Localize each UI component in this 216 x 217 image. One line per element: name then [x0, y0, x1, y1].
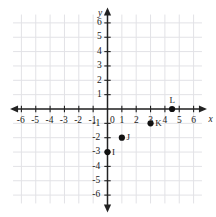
- data-point-j: [119, 135, 125, 141]
- x-tick-label: -2: [74, 116, 82, 126]
- y-tick-label: 1: [97, 90, 102, 100]
- y-tick-label: -3: [92, 147, 100, 157]
- x-tick-label: 4: [163, 116, 168, 126]
- point-label-j: J: [126, 133, 130, 142]
- x-tick-label: 5: [177, 116, 182, 126]
- x-tick-label: 6: [191, 116, 196, 126]
- point-label-k: K: [155, 119, 162, 128]
- y-tick-label: 4: [97, 47, 102, 57]
- y-tick-label: 2: [97, 76, 102, 86]
- x-tick-label: 1: [120, 116, 125, 126]
- point-label-l: L: [169, 96, 175, 105]
- point-label-i: I: [112, 148, 115, 157]
- x-axis-arrow-left: [10, 105, 18, 112]
- y-axis-arrow-down: [104, 204, 111, 212]
- x-tick-label: 3: [148, 116, 153, 126]
- x-axis-arrow-right: [199, 105, 207, 112]
- x-tick-label: -5: [31, 116, 39, 126]
- y-axis-label: y: [98, 9, 102, 19]
- y-tick-label: 5: [97, 32, 102, 42]
- y-tick-label: -5: [92, 176, 100, 186]
- origin-label: 0: [110, 116, 115, 126]
- coordinate-plane: -6-5-4-3-2-1123456654321-1-2-3-4-5-60xyI…: [0, 0, 216, 217]
- x-tick-label: -3: [60, 116, 68, 126]
- y-tick-label: 6: [97, 18, 102, 28]
- y-tick-label: -1: [92, 119, 100, 129]
- y-tick-label: -2: [92, 133, 100, 143]
- x-tick-label: -4: [46, 116, 54, 126]
- axes: [10, 8, 207, 213]
- y-tick-label: 3: [97, 61, 102, 71]
- plot-canvas: [0, 0, 216, 217]
- data-point-i: [104, 149, 110, 155]
- y-axis-arrow-up: [104, 8, 111, 16]
- x-axis-label: x: [208, 115, 212, 125]
- data-point-l: [169, 106, 175, 112]
- x-tick-label: 2: [134, 116, 139, 126]
- y-tick-label: -4: [92, 162, 100, 172]
- x-tick-label: -6: [17, 116, 25, 126]
- y-tick-label: -6: [92, 190, 100, 200]
